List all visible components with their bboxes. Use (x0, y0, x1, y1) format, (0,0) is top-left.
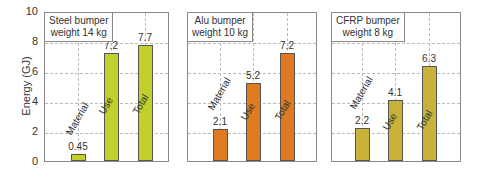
chart-panel: 0.45Material7.2Use7.7TotalSteel bumperwe… (44, 12, 169, 162)
value-label: 5.2 (238, 70, 268, 81)
y-tick: 6 (20, 65, 38, 77)
bar-use (246, 83, 261, 161)
y-tick: 2 (20, 125, 38, 137)
bar-material (355, 128, 370, 161)
chart: Energy (GJ) 10 8 6 4 2 0 0.45Material7.2… (0, 0, 477, 177)
value-label: 0.45 (63, 141, 93, 152)
chart-panel: 2.2Material4.1Use6.3TotalCFRP bumperweig… (331, 12, 461, 162)
panel-title: Alu bumperweight 10 kg (188, 13, 253, 42)
value-label: 6.3 (414, 53, 444, 64)
value-label: 7.2 (272, 40, 302, 51)
gridline (332, 43, 460, 44)
y-tick: 4 (20, 95, 38, 107)
panel-title: CFRP bumperweight 8 kg (332, 13, 405, 42)
panel-title: Steel bumperweight 14 kg (45, 13, 113, 42)
value-label: 7.7 (130, 32, 160, 43)
y-tick: 8 (20, 35, 38, 47)
y-tick: 0 (20, 155, 38, 167)
value-label: 4.1 (380, 87, 410, 98)
y-tick: 10 (20, 5, 38, 17)
value-label: 2.2 (347, 115, 377, 126)
value-label: 2.1 (205, 116, 235, 127)
gridline (332, 73, 460, 74)
chart-panel: 2.1Material5.2Use7.2TotalAlu bumperweigh… (187, 12, 317, 162)
y-axis-label: Energy (GJ) (20, 46, 32, 126)
bar-material (213, 129, 228, 161)
bar-material (71, 154, 86, 161)
